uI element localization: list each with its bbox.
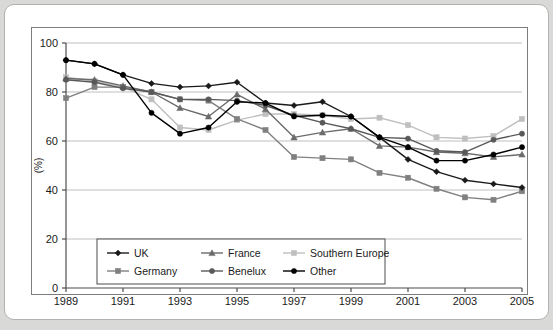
data-point-marker — [234, 99, 239, 104]
y-axis-title: (%) — [33, 158, 44, 174]
data-point-marker — [177, 84, 183, 90]
data-point-marker — [177, 131, 182, 136]
data-point-marker — [63, 58, 68, 63]
data-point-marker — [92, 85, 97, 90]
data-point-marker — [519, 131, 524, 136]
data-point-marker — [348, 114, 353, 119]
data-point-marker — [434, 148, 439, 153]
y-tick-label: 20 — [46, 233, 58, 245]
legend-box — [97, 239, 385, 284]
data-point-marker — [405, 136, 410, 141]
data-point-marker — [149, 97, 154, 102]
data-point-marker — [320, 99, 326, 105]
x-tick-label: 1989 — [54, 295, 78, 307]
data-point-marker — [206, 83, 212, 89]
data-point-marker — [209, 268, 214, 273]
y-tick-label: 60 — [46, 135, 58, 147]
data-point-marker — [234, 116, 239, 121]
y-tick-label: 0 — [52, 282, 58, 294]
series-line — [66, 60, 522, 187]
data-point-marker — [320, 113, 325, 118]
data-point-marker — [462, 158, 467, 163]
data-point-marker — [320, 156, 325, 161]
y-tick-label: 40 — [46, 184, 58, 196]
x-tick-label: 1993 — [168, 295, 192, 307]
data-point-marker — [206, 97, 211, 102]
x-tick-label: 1999 — [339, 295, 363, 307]
data-point-marker — [434, 169, 440, 175]
gridlines — [66, 43, 522, 239]
y-tick-label: 80 — [46, 86, 58, 98]
series-uk — [63, 57, 525, 190]
x-tick-label: 2003 — [453, 295, 477, 307]
data-point-marker — [291, 102, 297, 108]
legend-label: Southern Europe — [310, 247, 390, 259]
y-tick-label: 100 — [40, 37, 58, 49]
data-point-marker — [291, 114, 296, 119]
data-point-marker — [491, 137, 496, 142]
data-point-marker — [320, 120, 325, 125]
data-point-marker — [263, 111, 268, 116]
data-point-marker — [519, 145, 524, 150]
data-point-marker — [149, 80, 155, 86]
data-point-marker — [434, 158, 439, 163]
legend-label: Benelux — [228, 265, 267, 277]
data-point-marker — [348, 126, 353, 131]
data-point-marker — [491, 197, 496, 202]
legend-label: France — [228, 247, 261, 259]
data-point-marker — [291, 250, 296, 255]
data-point-marker — [120, 72, 125, 77]
data-point-marker — [434, 186, 439, 191]
x-tick-label: 2005 — [510, 295, 534, 307]
data-point-marker — [263, 100, 268, 105]
data-point-marker — [377, 170, 382, 175]
data-point-marker — [63, 96, 68, 101]
data-point-marker — [405, 122, 410, 127]
data-point-marker — [491, 152, 496, 157]
data-point-marker — [63, 77, 68, 82]
line-chart: 0204060801001989199119931995199719992001… — [0, 0, 553, 330]
data-point-marker — [462, 149, 467, 154]
data-point-marker — [434, 135, 439, 140]
legend-label: UK — [134, 247, 149, 259]
data-point-marker — [206, 125, 211, 130]
data-point-marker — [462, 177, 468, 183]
data-point-marker — [115, 268, 120, 273]
x-tick-label: 1991 — [111, 295, 135, 307]
x-tick-label: 1995 — [225, 295, 249, 307]
data-point-marker — [149, 110, 154, 115]
data-point-marker — [462, 136, 467, 141]
data-point-marker — [405, 145, 410, 150]
series-other — [63, 58, 524, 164]
data-point-marker — [92, 80, 97, 85]
data-point-marker — [377, 135, 382, 140]
series-line — [66, 60, 522, 160]
data-point-marker — [177, 105, 183, 111]
data-point-marker — [177, 97, 182, 102]
x-tick-label: 2001 — [396, 295, 420, 307]
data-point-marker — [291, 268, 296, 273]
data-point-marker — [291, 154, 296, 159]
data-point-marker — [491, 181, 497, 187]
data-point-marker — [405, 175, 410, 180]
chart-legend: UKFranceSouthern EuropeGermanyBeneluxOth… — [97, 239, 390, 284]
data-point-marker — [263, 127, 268, 132]
x-tick-label: 1997 — [282, 295, 306, 307]
data-point-marker — [120, 86, 125, 91]
chart-canvas: 0204060801001989199119931995199719992001… — [0, 0, 553, 330]
legend-label: Other — [310, 265, 337, 277]
data-point-marker — [519, 116, 524, 121]
data-point-marker — [92, 61, 97, 66]
data-point-marker — [462, 195, 467, 200]
data-point-marker — [149, 89, 154, 94]
data-point-marker — [377, 115, 382, 120]
data-point-marker — [348, 157, 353, 162]
legend-label: Germany — [134, 265, 178, 277]
data-point-marker — [177, 125, 182, 130]
